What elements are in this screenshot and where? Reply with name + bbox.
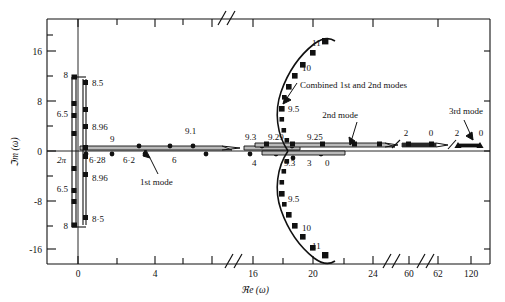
data-point <box>168 144 173 149</box>
data-point <box>322 38 328 44</box>
figure-canvas: 16 8 0 -8 -16 ℑm (ω) <box>0 0 505 302</box>
point-label: 9.5 <box>288 194 300 204</box>
data-point <box>279 106 285 112</box>
point-label: 11 <box>312 241 321 251</box>
x-axis-top-break-marks <box>218 11 235 25</box>
point-label: 6·28 <box>89 155 106 165</box>
data-point <box>72 113 77 118</box>
point-label: 9.25 <box>307 132 323 142</box>
data-point <box>83 215 88 220</box>
point-label: 8·5 <box>92 214 104 224</box>
data-point <box>300 234 306 240</box>
point-label: 10 <box>302 63 312 73</box>
annotation-third-mode: 3rd mode <box>449 106 483 116</box>
origin-vertical-branch <box>72 77 86 227</box>
y-tick-label: 16 <box>33 47 43 57</box>
data-point <box>282 202 287 207</box>
data-point <box>320 142 325 147</box>
data-point <box>83 172 88 177</box>
point-label: 3 <box>307 158 312 168</box>
point-label: 8.96 <box>92 122 108 132</box>
data-point <box>204 152 209 157</box>
data-point <box>280 180 285 185</box>
data-point <box>292 223 298 229</box>
x-axis-title: ℜe (ω) <box>241 285 269 296</box>
data-point <box>72 75 78 80</box>
data-point <box>72 101 77 106</box>
data-point <box>110 152 115 157</box>
data-point <box>264 142 269 147</box>
point-label: 9 <box>110 134 115 144</box>
data-point <box>322 252 328 258</box>
point-label: 4 <box>252 158 257 168</box>
data-point <box>248 152 253 157</box>
data-point <box>83 80 88 85</box>
annotation-first-mode: 1st mode <box>140 177 173 187</box>
x-tick-label: 60 <box>404 269 414 279</box>
point-label: 8 <box>64 70 69 80</box>
data-point <box>377 142 382 147</box>
data-point <box>282 169 287 174</box>
point-label: 9.5 <box>288 104 300 114</box>
data-point <box>310 50 316 56</box>
data-point <box>72 131 77 136</box>
y-axis-title: ℑm (ω) <box>10 137 21 166</box>
point-label: 2π <box>57 155 67 165</box>
x-axis-break-marks <box>225 254 434 268</box>
point-label: 8 <box>64 221 69 231</box>
point-label: 6 <box>172 155 177 165</box>
root-locus-plot: 16 8 0 -8 -16 ℑm (ω) <box>0 0 505 302</box>
data-point <box>191 144 196 149</box>
third-mode-branch <box>448 140 480 149</box>
data-point <box>72 223 78 228</box>
point-label: 9.29 <box>268 132 284 142</box>
x-axis-top-ticks <box>78 19 438 27</box>
point-label: 0 <box>429 128 434 138</box>
point-label: 9.3 <box>284 158 296 168</box>
point-label: 6.5 <box>57 184 69 194</box>
x-tick-label: 20 <box>308 269 318 279</box>
point-label: 8.96 <box>92 173 108 183</box>
y-tick-label: -16 <box>29 245 42 255</box>
x-tick-label: 24 <box>368 269 378 279</box>
data-point <box>286 212 292 218</box>
point-label: 8.5 <box>92 78 104 88</box>
x-tick-labels: 0 4 16 20 24 60 62 120 <box>76 269 479 279</box>
point-label: 0 <box>479 128 484 138</box>
second-mode-right-segment <box>392 140 448 148</box>
y-tick-label: 0 <box>37 147 42 157</box>
point-label: 9.3 <box>245 132 257 142</box>
data-point <box>290 142 295 147</box>
point-label: 11 <box>312 38 321 48</box>
data-point <box>285 138 290 143</box>
data-point <box>72 166 77 171</box>
data-point <box>83 124 88 129</box>
point-label: 2 <box>455 128 460 138</box>
x-tick-label: 120 <box>464 269 479 279</box>
y-tick-label: 8 <box>37 97 42 107</box>
data-point <box>286 84 292 90</box>
point-label: 6·2 <box>123 155 135 165</box>
data-point <box>280 117 285 122</box>
y-tick-label: -8 <box>34 197 42 207</box>
point-label: 6.5 <box>57 109 69 119</box>
x-tick-label: 62 <box>433 269 443 279</box>
data-point <box>137 144 142 149</box>
data-point <box>292 73 298 79</box>
point-label: 10 <box>302 223 312 233</box>
data-point <box>83 145 88 150</box>
x-tick-label: 16 <box>248 269 258 279</box>
data-point <box>83 107 88 112</box>
x-tick-label: 0 <box>76 269 81 279</box>
y-tick-labels: 16 8 0 -8 -16 <box>29 47 42 255</box>
data-point <box>279 191 285 197</box>
x-axis-ticks <box>78 256 471 264</box>
annotation-combined: Combined 1st and 2nd modes <box>300 80 407 90</box>
point-label: 9.1 <box>185 126 196 136</box>
data-point <box>83 154 88 159</box>
x-tick-label: 4 <box>153 269 158 279</box>
data-point <box>72 188 77 193</box>
data-point <box>72 199 77 204</box>
annotation-second-mode: 2nd mode <box>322 110 358 120</box>
point-label: 2 <box>404 128 409 138</box>
